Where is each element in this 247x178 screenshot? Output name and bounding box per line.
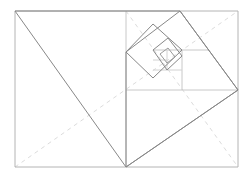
geometric-figure: Nested rotated squares in a dynamic rect… [0, 0, 247, 178]
geometry-canvas [0, 0, 247, 178]
